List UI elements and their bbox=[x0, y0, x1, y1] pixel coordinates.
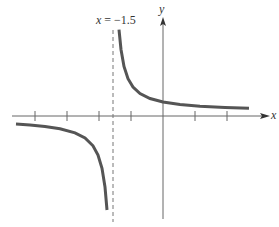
asymptote-label-value: = −1.5 bbox=[101, 13, 136, 27]
left-branch-curve bbox=[16, 124, 107, 210]
x-axis-label: x bbox=[271, 108, 276, 123]
right-branch-curve bbox=[119, 30, 249, 109]
function-graph bbox=[0, 0, 279, 227]
asymptote-label: x = −1.5 bbox=[96, 13, 136, 28]
y-axis-label: y bbox=[159, 2, 164, 17]
